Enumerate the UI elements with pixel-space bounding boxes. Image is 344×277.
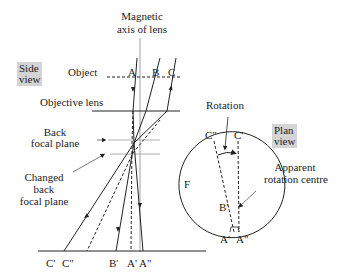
object-point-a: A <box>128 66 136 78</box>
circle-label-f: F <box>184 178 190 190</box>
plan-point-c-prime: C' <box>234 129 243 141</box>
rotation-label: Rotation <box>206 99 244 111</box>
ray-b <box>116 58 160 251</box>
ray-arrow <box>138 203 142 208</box>
changed-bfp-line2: back <box>14 183 74 195</box>
radial-c-prime <box>238 141 239 232</box>
ray-a-changed <box>131 111 133 251</box>
image-point-c-prime: C' <box>46 257 55 269</box>
side-view-tag: Side view <box>17 62 42 86</box>
apparent-centre-line2: rotation centre <box>258 173 334 185</box>
plan-point-c-double: C" <box>205 129 217 141</box>
back-focal-plane-line2: focal plane <box>22 137 88 149</box>
axis-label-line1: Magnetic <box>112 10 172 22</box>
a-bracket <box>230 227 239 232</box>
changed-bfp-line1: Changed <box>14 171 74 183</box>
changed-bfp-arrow <box>73 155 103 172</box>
image-point-c-double: C" <box>62 257 74 269</box>
objective-lens-label: Objective lens <box>40 96 103 108</box>
plan-view-tag: Plan view <box>272 124 297 148</box>
object-point-c: C <box>168 66 175 78</box>
object-label: Object <box>68 66 97 78</box>
plan-point-b-prime: B' <box>219 201 228 213</box>
side-view-tag-line2: view <box>19 74 40 85</box>
image-point-a-prime: A' <box>127 257 137 269</box>
plan-view-tag-line2: view <box>274 136 295 147</box>
apparent-centre-line1: Apparent <box>260 161 330 173</box>
ray-c <box>64 58 176 251</box>
changed-bfp-line3: focal plane <box>8 195 80 207</box>
rotation-arc <box>218 152 234 155</box>
plan-view-circle-top <box>226 132 272 150</box>
radial-c-double <box>214 141 234 232</box>
plan-point-a-prime: A' <box>220 233 230 245</box>
ray-a <box>133 58 143 251</box>
object-point-b: B <box>152 66 159 78</box>
plan-point-a-double: A" <box>236 233 248 245</box>
image-point-a-double: A" <box>139 257 151 269</box>
axis-label-line2: axis of lens <box>106 23 178 35</box>
apparent-centre-pointer <box>240 191 256 206</box>
image-point-b-prime: B' <box>109 257 118 269</box>
